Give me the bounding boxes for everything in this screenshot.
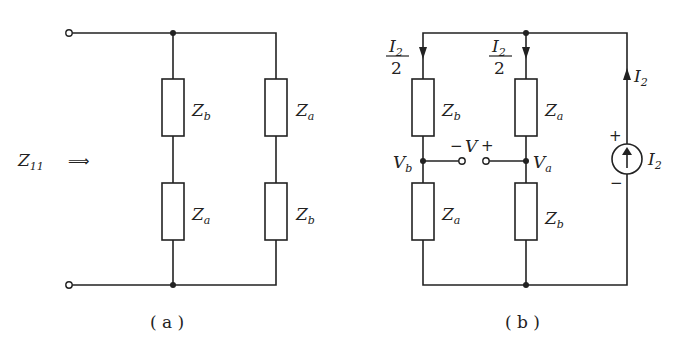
label-b-mid-bottom: Zb: [544, 208, 564, 231]
label-i2-source: I2: [647, 149, 662, 172]
terminal-v-plus: [483, 158, 489, 164]
label-va: Va: [533, 152, 552, 175]
double-arrow-icon: ⟹: [68, 152, 90, 170]
label-z11: Z11: [17, 150, 44, 173]
resistor-a-left-top: [162, 79, 184, 136]
node-bottom-b: [523, 282, 529, 288]
caption-a: ( a ): [150, 312, 184, 332]
resistor-b-mid-bottom: [515, 183, 537, 240]
wire-top-a: [72, 33, 276, 79]
source-plus: +: [609, 127, 622, 145]
label-v: V: [465, 136, 479, 156]
label-a-right-bottom: Zb: [295, 204, 315, 227]
resistor-b-mid-top: [515, 79, 537, 136]
node-top-b: [523, 30, 529, 36]
node-top-a: [170, 30, 176, 36]
label-b-mid-top: Za: [544, 100, 563, 123]
label-v-minus: −: [450, 137, 463, 155]
figure-a: Zb Za Za Zb Z11 ⟹ ( a ): [17, 30, 315, 332]
wire-bottom-a: [72, 240, 276, 285]
label-current-left: I2 2: [386, 36, 409, 78]
svg-text:2: 2: [494, 58, 505, 78]
label-i2-branch: I2: [633, 66, 648, 89]
label-a-left-top: Zb: [191, 100, 211, 123]
resistor-b-left-top: [412, 79, 434, 136]
terminal-v-minus: [459, 158, 465, 164]
current-arrow-left: [419, 47, 427, 59]
current-arrow-source: [623, 68, 631, 80]
node-bottom-a: [170, 282, 176, 288]
caption-b: ( b ): [505, 312, 540, 332]
figure-b: Zb Za Za Zb Vb Va − V + I2 2 I2 2 I2 I2 …: [386, 30, 662, 332]
resistor-b-left-bottom: [412, 183, 434, 240]
resistor-a-right-bottom: [265, 183, 287, 240]
resistor-a-left-bottom: [162, 183, 184, 240]
terminal-top-a: [66, 30, 72, 36]
label-b-left-bottom: Za: [441, 204, 460, 227]
label-vb: Vb: [393, 152, 412, 175]
label-b-left-top: Zb: [441, 100, 461, 123]
terminal-bottom-a: [66, 282, 72, 288]
source-minus: −: [610, 174, 623, 192]
label-a-left-bottom: Za: [191, 204, 210, 227]
svg-text:2: 2: [391, 58, 402, 78]
label-a-right-top: Za: [295, 100, 314, 123]
resistor-a-right-top: [265, 79, 287, 136]
label-current-mid: I2 2: [489, 36, 512, 78]
label-v-plus: +: [481, 137, 494, 155]
current-arrow-mid: [522, 47, 530, 59]
